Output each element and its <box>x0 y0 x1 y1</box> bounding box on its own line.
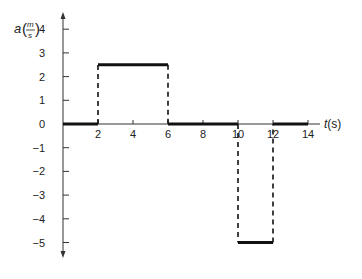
x-axis-label: t(s) <box>324 117 341 131</box>
y-tick-label: −1 <box>32 142 45 154</box>
x-tick-label: 8 <box>200 128 206 140</box>
acceleration-time-chart: 43210−1−2−3−4−52468101214 a ( m s ) t(s) <box>0 0 362 279</box>
x-tick-label: 4 <box>130 128 136 140</box>
y-tick-label: 2 <box>39 71 45 83</box>
y-axis-arrow-down-icon <box>61 251 66 258</box>
x-tick-label: 2 <box>95 128 101 140</box>
axis-ticks: 43210−1−2−3−4−52468101214 <box>32 23 314 248</box>
y-tick-label: −5 <box>32 237 45 249</box>
y-tick-label: 1 <box>39 94 45 106</box>
y-axis-label-symbol: a <box>14 21 21 36</box>
x-tick-label: 6 <box>165 128 171 140</box>
x-tick-label: 14 <box>302 128 314 140</box>
y-axis-arrow-up-icon <box>61 12 66 19</box>
y-tick-label: −3 <box>32 189 45 201</box>
data-series <box>63 65 308 243</box>
y-tick-label: 3 <box>39 47 45 59</box>
y-axis-label-den: s <box>28 31 32 40</box>
y-axis-label-num: m <box>27 20 34 29</box>
y-tick-label: 0 <box>39 118 45 130</box>
y-axis-label-paren-close: ) <box>35 20 40 37</box>
y-tick-label: −4 <box>32 213 45 225</box>
y-tick-label: −2 <box>32 165 45 177</box>
